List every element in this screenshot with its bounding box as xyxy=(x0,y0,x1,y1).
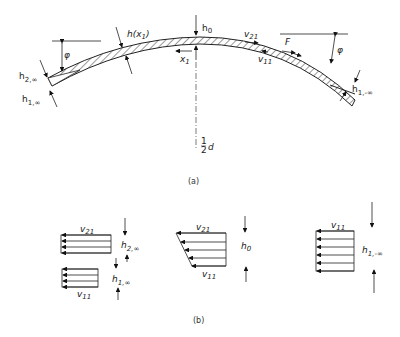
h2-inf-label: h2,∞ xyxy=(19,71,37,84)
x1-label: x1 xyxy=(179,54,190,66)
h1-inf-label: h1,∞ xyxy=(22,94,40,107)
right-phi-arrow xyxy=(331,36,335,63)
outflow-h1-neg-inf-label: h1,-∞ xyxy=(362,245,383,258)
inflow-upper-profile: v21 xyxy=(61,224,111,253)
half-d-var: d xyxy=(208,142,214,152)
center-v21-label: v21 xyxy=(196,222,210,234)
h1-neg-inf-arrow-top xyxy=(355,70,360,82)
part-b-velocity-profiles: v21 h2,∞ v11 h1,∞ v21 v11 xyxy=(61,202,383,325)
outflow-v11-label: v11 xyxy=(331,220,345,232)
force-arrow-2 xyxy=(292,53,301,56)
inflow-lower-profile: v11 xyxy=(62,269,98,301)
inflow-h2-inf-label: h2,∞ xyxy=(121,240,139,253)
h0-label: h0 xyxy=(202,23,212,35)
h1-neg-inf-label: h1,-∞ xyxy=(352,84,373,97)
inflow-h1-inf-label: h1,∞ xyxy=(112,274,130,287)
h2-inf-arrow xyxy=(40,60,47,77)
phi-right-label: φ xyxy=(337,45,343,55)
inflow-v21-label: v21 xyxy=(80,224,94,236)
center-profile: v21 v11 xyxy=(176,222,226,281)
h-x1-arrow-top xyxy=(116,27,122,47)
caption-b: (b) xyxy=(193,316,204,325)
h-x1-label: h(x1) xyxy=(127,29,150,41)
film-strip xyxy=(48,37,355,106)
v21-label: v21 xyxy=(244,29,258,41)
inflow-v11-label: v11 xyxy=(77,289,91,301)
v11-label: v11 xyxy=(258,54,272,66)
center-h0-label: h0 xyxy=(241,241,252,253)
half-d-denominator: 2 xyxy=(201,145,207,155)
h-x1-arrow-bottom xyxy=(126,56,132,74)
phi-left-label: φ xyxy=(64,50,70,60)
force-label: F xyxy=(285,37,291,47)
part-a-film-diagram: φ h2,∞ h1,∞ h(x1) h0 x1 1 2 d v21 v11 F xyxy=(19,15,373,186)
diagram-canvas: φ h2,∞ h1,∞ h(x1) h0 x1 1 2 d v21 v11 F xyxy=(0,0,400,337)
outflow-profile: v11 xyxy=(316,220,354,271)
caption-a: (a) xyxy=(188,177,199,186)
center-v11-label: v11 xyxy=(202,269,216,281)
h1-inf-arrow xyxy=(50,91,57,107)
